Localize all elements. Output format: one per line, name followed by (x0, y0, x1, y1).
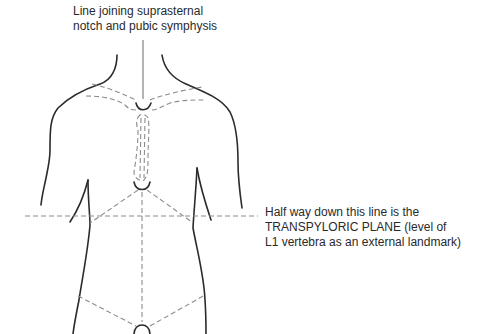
right-clavicle-upper (150, 87, 202, 100)
right-costal-margin (147, 190, 192, 222)
right-torso-outline (193, 168, 206, 334)
label-top-line1: Line joining suprasternal (73, 4, 217, 19)
left-clavicle-lower (86, 96, 136, 110)
left-clavicle-upper (92, 84, 136, 100)
right-clavicle-lower (152, 100, 205, 110)
left-torso-outline (73, 180, 90, 334)
torso-figure (0, 0, 495, 334)
label-right-line3: L1 vertebra as an external landmark) (265, 235, 461, 250)
suprasternal-pubic-line-label: Line joining suprasternal notch and pubi… (73, 4, 217, 34)
right-neck-shoulder-outline (162, 55, 242, 208)
right-inguinal-line (150, 295, 205, 326)
label-right-line1: Half way down this line is the (265, 205, 461, 220)
sternum-inner-right (144, 118, 145, 178)
label-top-line2: notch and pubic symphysis (73, 19, 217, 34)
anatomy-diagram: Line joining suprasternal notch and pubi… (0, 0, 495, 334)
suprasternal-notch (136, 103, 151, 110)
right-inner-arm-outline (197, 168, 211, 220)
left-costal-margin (90, 190, 138, 223)
pubic-symphysis-arc (134, 325, 150, 334)
left-neck-shoulder-outline (41, 55, 117, 205)
sternum-inner-left (140, 118, 141, 178)
left-inguinal-line (78, 296, 136, 326)
xiphisternal-arc (134, 182, 150, 190)
sternum-outline (134, 114, 149, 180)
label-right-line2: TRANSPYLORIC PLANE (level of (265, 220, 461, 235)
transpyloric-plane-label: Half way down this line is the TRANSPYLO… (265, 205, 461, 250)
